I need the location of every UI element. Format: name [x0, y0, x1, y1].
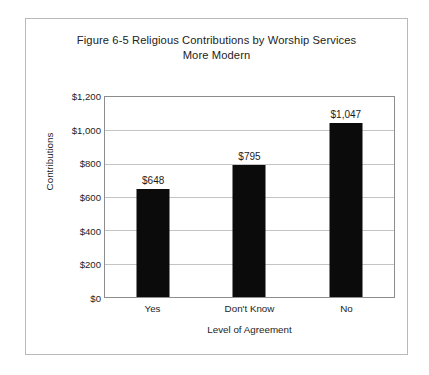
bar-slot-no: $1,047 — [298, 97, 394, 297]
y-tick-200: $200 — [41, 259, 101, 270]
figure-frame: Figure 6-5 Religious Contributions by Wo… — [25, 18, 408, 355]
x-axis-title: Level of Agreement — [104, 324, 395, 335]
chart-title-line1: Figure 6-5 Religious Contributions by Wo… — [77, 34, 356, 46]
bar-dont-know[interactable] — [233, 165, 266, 298]
y-tick-1200: $1,200 — [41, 91, 101, 102]
y-tick-600: $600 — [41, 192, 101, 203]
bar-label-yes: $648 — [142, 175, 164, 186]
bar-label-dont-know: $795 — [238, 151, 260, 162]
x-cat-no: No — [340, 303, 353, 314]
bar-yes[interactable] — [137, 189, 170, 297]
x-cat-dont-know: Don't Know — [225, 303, 275, 314]
bar-no[interactable] — [329, 123, 362, 298]
x-cat-yes: Yes — [145, 303, 161, 314]
bar-label-no: $1,047 — [331, 109, 362, 120]
y-axis-ticks: $0 $200 $400 $600 $800 $1,000 $1,200 — [38, 96, 101, 298]
y-tick-400: $400 — [41, 225, 101, 236]
bar-slot-yes: $648 — [105, 97, 201, 297]
y-tick-800: $800 — [41, 158, 101, 169]
chart-title-line2: More Modern — [26, 48, 407, 63]
chart-title: Figure 6-5 Religious Contributions by Wo… — [26, 33, 407, 63]
x-axis-categories: Yes Don't Know No — [104, 303, 395, 319]
bar-slot-dont-know: $795 — [201, 97, 297, 297]
y-tick-0: $0 — [41, 293, 101, 304]
bars-layer: $648 $795 $1,047 — [105, 97, 394, 297]
y-tick-1000: $1,000 — [41, 124, 101, 135]
plot-area: $648 $795 $1,047 — [104, 96, 395, 298]
